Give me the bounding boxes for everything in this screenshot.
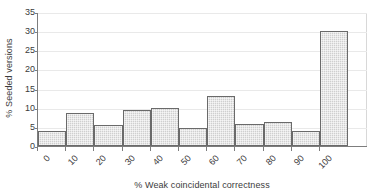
x-axis-tick-mark bbox=[291, 147, 292, 151]
y-axis-tick-label: 10 bbox=[13, 104, 35, 113]
x-axis-tick-mark bbox=[93, 147, 94, 151]
x-axis-tick-mark bbox=[206, 147, 207, 151]
y-axis-tick-label: 25 bbox=[13, 46, 35, 55]
bar bbox=[235, 124, 263, 146]
bar bbox=[320, 31, 348, 146]
x-axis-tick-mark bbox=[37, 147, 38, 151]
bar-series bbox=[38, 13, 367, 146]
y-axis-tick-label: 20 bbox=[13, 65, 35, 74]
x-axis-title: % Weak coincidental correctness bbox=[37, 180, 367, 190]
y-axis-tick-label: 5 bbox=[13, 123, 35, 132]
x-axis-tick-mark bbox=[234, 147, 235, 151]
plot-area bbox=[37, 13, 367, 147]
x-axis-tick-mark bbox=[263, 147, 264, 151]
y-axis-tick-label: 30 bbox=[13, 27, 35, 36]
x-axis-tick-mark bbox=[319, 147, 320, 151]
x-axis-tick-mark bbox=[122, 147, 123, 151]
bar bbox=[151, 108, 179, 146]
y-axis-tick-label: 35 bbox=[13, 8, 35, 17]
bar bbox=[94, 125, 122, 146]
bar bbox=[123, 110, 151, 146]
x-axis-tick-mark bbox=[150, 147, 151, 151]
y-axis-tick-label: 0 bbox=[13, 142, 35, 151]
bar bbox=[207, 96, 235, 146]
bar bbox=[264, 122, 292, 146]
x-axis-ticks: 0102030405060708090100 bbox=[37, 147, 367, 177]
bar bbox=[179, 128, 207, 146]
y-axis-tick-label: 15 bbox=[13, 85, 35, 94]
bar bbox=[38, 131, 66, 146]
x-axis-tick-mark bbox=[65, 147, 66, 151]
bar bbox=[292, 131, 320, 146]
x-axis-tick-mark bbox=[178, 147, 179, 151]
bar bbox=[66, 113, 94, 146]
histogram-chart: % Seeded versions 05101520253035 0102030… bbox=[0, 0, 370, 194]
